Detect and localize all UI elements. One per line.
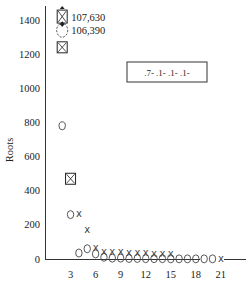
y-axis: 0200400600800100012001400 Roots: [4, 6, 46, 265]
x-marker: x: [218, 253, 224, 264]
x-marker: x: [143, 247, 149, 258]
svg-text:x: x: [218, 253, 224, 264]
legend-entries: .7- .1- .1- .1-: [144, 68, 190, 78]
y-tick-label: 600: [24, 151, 40, 162]
y-tick-label: 1400: [19, 15, 40, 26]
x-tick-label: 6: [93, 269, 98, 280]
x-marker: x: [101, 246, 107, 257]
svg-text:x: x: [101, 246, 107, 257]
svg-text:x: x: [84, 224, 90, 235]
y-tick-label: 400: [24, 185, 40, 196]
svg-text:x: x: [159, 248, 165, 259]
y-tick-label: 800: [24, 117, 40, 128]
x-marker: x: [159, 248, 165, 259]
circle-marker: [184, 255, 190, 263]
circle-marker: [76, 249, 82, 257]
boxed-x-marker: [57, 42, 67, 53]
svg-text:x: x: [126, 247, 132, 258]
y-tick-labels: 0200400600800100012001400: [19, 15, 40, 265]
circle-marker: [201, 255, 207, 263]
x-tick-label: 18: [191, 269, 202, 280]
svg-text:x: x: [118, 246, 124, 257]
circle-marker: [59, 122, 65, 130]
x-marker: x: [151, 248, 157, 259]
y-tick-label: 200: [24, 219, 40, 230]
offscale-value-label: 107,630: [71, 12, 105, 23]
x-marker: x: [126, 247, 132, 258]
svg-text:x: x: [151, 248, 157, 259]
x-tick-label: 12: [140, 269, 151, 280]
svg-text:x: x: [134, 247, 140, 258]
svg-text:x: x: [93, 242, 99, 253]
x-marker: x: [168, 248, 174, 259]
data-points: xxxxxxxxxxxxx: [57, 6, 224, 264]
x-tick-label: 3: [68, 269, 73, 280]
x-tick-label: 9: [118, 269, 123, 280]
dashed-circle-marker: [57, 21, 68, 37]
x-marker: x: [118, 246, 124, 257]
circle-marker: [193, 255, 199, 263]
svg-text:x: x: [168, 248, 174, 259]
x-marker: x: [84, 224, 90, 235]
circle-marker: [84, 245, 90, 253]
x-tick-label: 15: [166, 269, 177, 280]
legend: .7- .1- .1- .1-: [127, 62, 207, 82]
circle-marker: [67, 211, 73, 219]
svg-text:x: x: [109, 246, 115, 257]
scatter-chart: 0200400600800100012001400 Roots 36912151…: [0, 0, 248, 285]
x-tick-labels: 36912151821: [68, 269, 226, 280]
annotations: 107,630106,390: [71, 12, 105, 37]
y-axis-label: Roots: [4, 138, 15, 163]
y-tick-label: 1000: [19, 83, 40, 94]
x-tick-label: 21: [216, 269, 227, 280]
circle-marker: [176, 255, 182, 263]
offscale-value-label: 106,390: [71, 25, 105, 36]
y-tick-label: 0: [35, 254, 40, 265]
x-marker: x: [93, 242, 99, 253]
x-marker: x: [134, 247, 140, 258]
y-tick-label: 1200: [19, 49, 40, 60]
circle-marker: [209, 255, 215, 263]
boxed-x-marker: [66, 173, 76, 184]
svg-text:x: x: [143, 247, 149, 258]
svg-text:x: x: [76, 208, 82, 219]
x-marker: x: [76, 208, 82, 219]
x-marker: x: [109, 246, 115, 257]
